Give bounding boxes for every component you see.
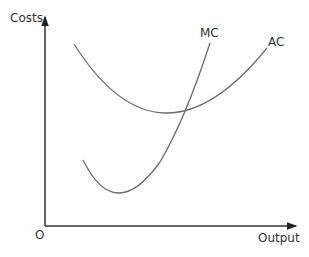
x-axis-label: Output xyxy=(258,231,300,245)
mc-label: MC xyxy=(200,26,219,40)
mc-curve xyxy=(83,43,210,193)
origin-label: O xyxy=(35,228,44,242)
y-axis-label: Costs xyxy=(10,11,43,25)
ac-label: AC xyxy=(268,35,284,49)
cost-curves-diagram: MC AC Costs Output O xyxy=(0,0,309,257)
ac-curve xyxy=(74,44,267,113)
